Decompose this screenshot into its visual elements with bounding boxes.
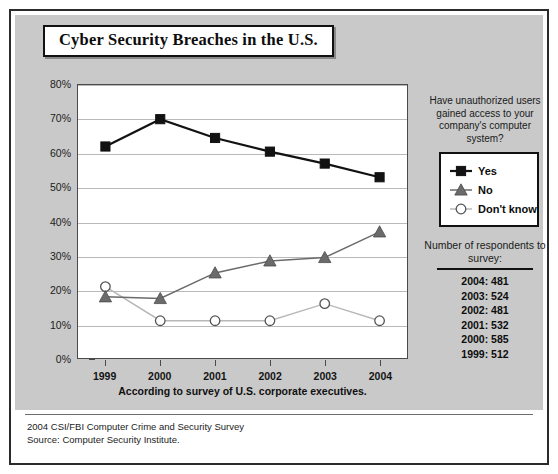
legend-triangle-icon [449,183,473,197]
y-axis-tick-label: 70% [50,112,71,124]
y-axis-tick-label: 30% [50,250,71,262]
series-line [105,287,379,321]
x-axis-tick-label: 2001 [203,370,226,382]
legend-item[interactable]: No [449,180,530,199]
x-axis-tick-mark [160,360,161,366]
plot-wrapper [77,84,408,359]
respondent-row: 2003: 524 [423,289,547,304]
legend-item[interactable]: Yes [449,161,530,180]
plot-area [77,84,408,359]
y-axis-tick-label: 50% [50,181,71,193]
footer-line-2: Source: Computer Security Institute. [27,434,244,447]
chart-figure: Cyber Security Breaches in the U.S. 0%10… [9,9,549,465]
chart-legend: YesNoDon't know [439,152,539,227]
data-point-marker [373,226,385,237]
x-axis-tick-mark [270,360,271,366]
x-axis-tick-mark [215,360,216,366]
y-axis-tick-label: 20% [50,284,71,296]
data-point-marker [265,316,275,326]
legend-label: Yes [478,165,497,177]
respondent-row: 2001: 532 [423,318,547,333]
chart-caption: According to survey of U.S. corporate ex… [77,385,408,397]
data-point-marker [375,316,385,326]
survey-question: Have unauthorized users gained access to… [423,95,547,145]
data-point-marker [319,251,331,262]
x-axis-tick-mark [105,360,106,366]
footer-source: 2004 CSI/FBI Computer Crime and Security… [27,421,244,446]
legend-label: No [478,184,493,196]
x-axis-tick-label: 2004 [369,370,392,382]
y-axis-tick-label: 0% [56,353,71,365]
respondent-row: 2002: 481 [423,303,547,318]
legend-item[interactable]: Don't know [449,199,530,218]
y-axis-tick-label: 80% [50,78,71,90]
y-axis-tick-label: 10% [50,319,71,331]
data-point-marker [101,142,110,151]
series-layer [78,85,407,358]
x-axis-tick-mark [380,360,381,366]
data-point-marker [320,159,329,168]
legend-square-icon [449,164,473,178]
y-axis: 0%10%20%30%40%50%60%70%80% [29,84,71,359]
respondent-row: 1999: 512 [423,347,547,362]
footer-line-1: 2004 CSI/FBI Computer Crime and Security… [27,421,244,434]
data-point-marker [155,316,165,326]
page-title: Cyber Security Breaches in the U.S. [59,30,318,50]
respondents-panel: Number of respondents to survey: 2004: 4… [423,239,547,361]
respondents-heading: Number of respondents to survey: [423,239,547,265]
x-axis-tick-label: 2003 [314,370,337,382]
data-point-marker [211,133,220,142]
x-axis-tick-mark [325,360,326,366]
y-axis-tick-label: 40% [50,216,71,228]
x-axis: 199920002001200220032004 [77,360,408,382]
y-axis-tick-label: 60% [50,147,71,159]
data-point-marker [265,147,274,156]
data-point-marker [156,115,165,124]
respondents-divider [437,268,533,270]
respondents-list: 2004: 4812003: 5242002: 4812001: 5322000… [423,274,547,361]
data-point-marker [210,316,220,326]
chart-footer: 2004 CSI/FBI Computer Crime and Security… [15,414,543,463]
chart-title-box: Cyber Security Breaches in the U.S. [43,25,334,57]
footer-divider [25,414,533,415]
legend-label: Don't know [478,203,537,215]
data-point-marker [375,173,384,182]
x-axis-tick-label: 2000 [148,370,171,382]
series-line [105,232,379,299]
respondent-row: 2000: 585 [423,332,547,347]
respondent-row: 2004: 481 [423,274,547,289]
data-point-marker [320,299,330,309]
series-line [105,119,379,177]
x-axis-tick-label: 2002 [258,370,281,382]
x-axis-tick-label: 1999 [93,370,116,382]
legend-circle-icon [449,202,473,216]
